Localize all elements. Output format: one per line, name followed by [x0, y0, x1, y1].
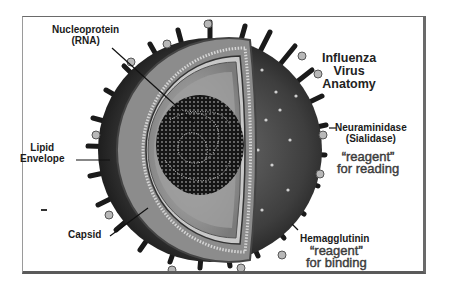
envelope-text: Envelope — [20, 153, 64, 164]
title-line-3: Anatomy — [322, 78, 376, 91]
for-binding-text: for binding — [306, 257, 367, 269]
label-lipid-envelope: Lipid Envelope — [20, 142, 64, 164]
nucleoprotein-text: Nucleoprotein — [52, 24, 119, 35]
stray-mark — [41, 209, 47, 211]
label-nucleoprotein: Nucleoprotein (RNA) — [52, 24, 119, 46]
rna-text: (RNA) — [52, 35, 119, 46]
neuraminidase-text: Neuraminidase — [335, 122, 407, 133]
for-reading-text: for reading — [337, 163, 399, 175]
label-neuraminidase: Neuraminidase (Sialidase) — [335, 122, 407, 144]
rna-core — [156, 95, 244, 195]
diagram-title: Influenza Virus Anatomy — [322, 52, 376, 91]
label-reagent-reading: “reagent” for reading — [337, 151, 399, 175]
sialidase-text: (Sialidase) — [335, 133, 407, 144]
label-reagent-binding: “reagent” for binding — [306, 245, 367, 269]
label-capsid: Capsid — [68, 230, 101, 240]
lipid-text: Lipid — [20, 142, 64, 153]
